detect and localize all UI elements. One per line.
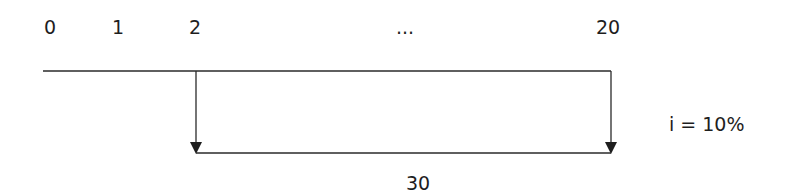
period-label-2: 2 <box>189 18 201 37</box>
annuity-amount-label: 30 <box>406 174 430 193</box>
arrow-period-2-head-icon <box>190 142 202 154</box>
period-label-20: 20 <box>596 18 620 37</box>
arrow-period-20-head-icon <box>605 142 617 154</box>
period-ellipsis: ... <box>396 18 414 37</box>
interest-rate-label: i = 10% <box>669 115 745 134</box>
period-label-1: 1 <box>112 18 124 37</box>
period-label-0: 0 <box>44 18 56 37</box>
